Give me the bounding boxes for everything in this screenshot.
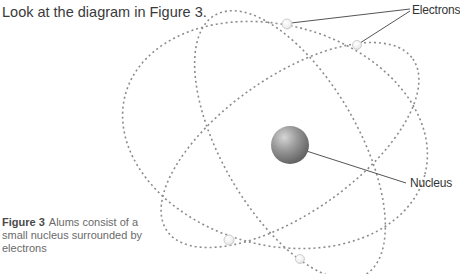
electrons-leader-line-2 [360,11,410,43]
figure-caption: Figure 3Alums consist of a small nucleus… [2,216,162,255]
electrons-leader-line-1 [291,9,410,23]
electron-4 [296,255,305,264]
electrons-label: Electrons [412,3,460,17]
figure-number: Figure 3 [2,216,45,228]
electron-2 [353,41,362,50]
nucleus-sphere [271,126,309,164]
nucleus-leader-line [294,147,406,183]
electron-1 [282,19,292,29]
electron-3 [224,235,234,245]
nucleus-label: Nucleus [410,176,452,190]
